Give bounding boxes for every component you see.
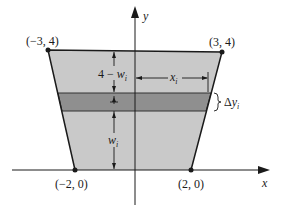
x-axis-label: x: [261, 176, 268, 190]
trapezoid-strip-diagram: x y (−3, 4) (3, 4) (−2, 0) (2, 0) 4 − wi: [0, 0, 281, 216]
brace-icon: [214, 93, 221, 111]
point-label-neg3-4: (−3, 4): [26, 34, 59, 48]
point-3-4: [220, 50, 225, 55]
point-2-0: [189, 168, 194, 173]
point-label-3-4: (3, 4): [209, 35, 235, 49]
point-label-neg2-0: (−2, 0): [55, 177, 88, 191]
label-4-minus-wi: 4 − wi: [98, 67, 127, 83]
point-label-2-0: (2, 0): [178, 177, 204, 191]
point-neg2-0: [73, 168, 78, 173]
x-axis-arrow-icon: [258, 166, 270, 174]
point-neg3-4: [46, 48, 51, 53]
y-axis-arrow-icon: [131, 6, 139, 18]
y-axis-label: y: [142, 9, 149, 23]
label-delta-yi: Δyi: [224, 95, 239, 111]
